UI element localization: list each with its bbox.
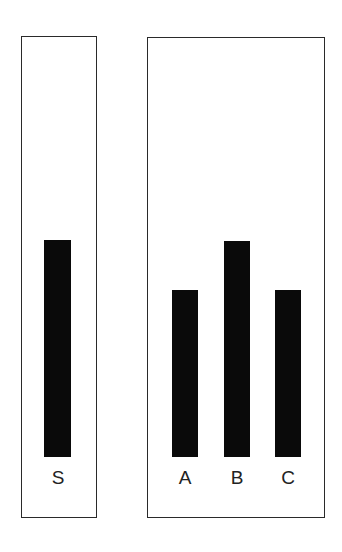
- comparison-line-a: [172, 290, 198, 457]
- comparison-line-a-label: A: [165, 468, 205, 488]
- comparison-line-c-label: C: [268, 468, 308, 488]
- comparison-line-b: [224, 241, 250, 457]
- comparison-line-c: [275, 290, 301, 457]
- comparison-line-b-label: B: [217, 468, 257, 488]
- standard-line-s: [44, 240, 71, 457]
- standard-line-label: S: [38, 468, 78, 488]
